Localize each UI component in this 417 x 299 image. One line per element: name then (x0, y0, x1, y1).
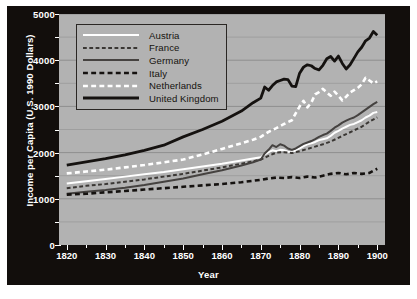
series-line-italy (67, 169, 377, 195)
legend-label: Austria (149, 30, 180, 41)
y-tick-label: 3000 (33, 101, 55, 112)
legend-swatch-icon (82, 54, 140, 66)
legend-label: France (149, 42, 179, 53)
legend-label: Germany (149, 55, 189, 66)
y-tick-label: 1000 (33, 193, 55, 204)
legend: AustriaFranceGermanyItalyNetherlandsUnit… (76, 24, 227, 110)
x-axis-title: Year (0, 269, 417, 280)
y-tick-mark (55, 245, 61, 246)
legend-swatch-icon (82, 42, 140, 54)
legend-item-france[interactable]: France (82, 42, 219, 55)
legend-label: United Kingdom (149, 93, 219, 104)
legend-item-austria[interactable]: Austria (82, 29, 219, 42)
legend-swatch-icon (82, 29, 140, 41)
y-tick-label: 4000 (33, 55, 55, 66)
legend-swatch-icon (82, 80, 140, 92)
legend-label: Netherlands (149, 80, 202, 91)
y-tick-label: 5000 (33, 9, 55, 20)
legend-item-germany[interactable]: Germany (82, 54, 219, 67)
legend-swatch-icon (82, 67, 140, 79)
legend-label: Italy (149, 68, 167, 79)
legend-item-netherlands[interactable]: Netherlands (82, 79, 219, 92)
y-tick-label: 2000 (33, 147, 55, 158)
legend-swatch-icon (82, 92, 140, 104)
legend-item-italy[interactable]: Italy (82, 67, 219, 80)
y-axis: Income per Capita (U.S. 1990 Dollars) 01… (7, 6, 59, 285)
legend-item-united-kingdom[interactable]: United Kingdom (82, 92, 219, 105)
figure: Income per Capita (U.S. 1990 Dollars) 01… (0, 0, 417, 299)
